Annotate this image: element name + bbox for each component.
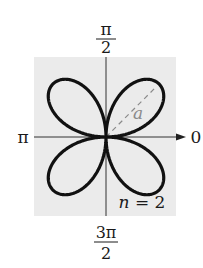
label-pi-over-2-num: π: [100, 19, 111, 39]
arrow-right-icon: [176, 134, 186, 141]
polar-rose-figure: π 2 3π 2 π 0 a n = 2: [0, 0, 203, 268]
petal-length-label: a: [133, 103, 143, 123]
label-pi: π: [17, 127, 28, 147]
label-pi-over-2-den: 2: [101, 38, 111, 57]
n-equals-label: n = 2: [119, 192, 166, 212]
label-zero: 0: [191, 127, 202, 147]
label-3pi-over-2-num: 3π: [96, 223, 117, 242]
label-3pi-over-2-den: 2: [101, 244, 111, 263]
